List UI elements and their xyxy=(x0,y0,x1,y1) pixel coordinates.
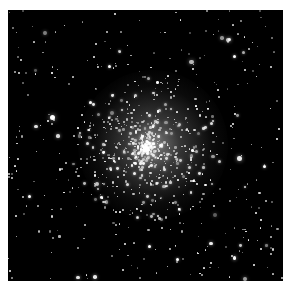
star xyxy=(84,224,86,226)
star xyxy=(182,258,184,260)
star xyxy=(35,73,36,74)
star xyxy=(140,210,142,212)
star xyxy=(144,179,146,181)
star xyxy=(105,200,108,203)
star xyxy=(281,277,283,279)
star xyxy=(237,33,239,35)
star xyxy=(234,113,236,115)
star xyxy=(148,245,151,248)
star xyxy=(146,112,147,113)
star xyxy=(68,83,70,85)
star xyxy=(113,67,115,69)
star xyxy=(169,128,171,130)
star xyxy=(218,96,220,98)
star xyxy=(179,222,181,224)
star xyxy=(117,176,119,178)
star xyxy=(242,61,243,62)
star xyxy=(193,64,194,65)
star xyxy=(101,66,102,67)
star xyxy=(51,215,53,217)
star xyxy=(154,219,156,221)
star xyxy=(185,178,186,179)
star xyxy=(265,200,267,202)
star xyxy=(218,160,221,163)
star xyxy=(272,162,273,163)
star xyxy=(108,154,110,156)
star xyxy=(180,136,182,138)
star xyxy=(160,146,162,148)
star xyxy=(155,157,156,158)
star xyxy=(110,111,114,115)
star xyxy=(194,98,196,100)
star xyxy=(170,229,171,230)
star xyxy=(20,59,22,61)
star xyxy=(213,34,214,35)
star xyxy=(267,267,268,268)
star xyxy=(116,167,119,170)
star xyxy=(34,125,38,129)
star xyxy=(174,119,175,120)
star xyxy=(234,227,235,228)
star xyxy=(141,174,144,177)
star xyxy=(83,238,85,240)
star xyxy=(237,84,238,85)
star xyxy=(154,94,156,96)
star xyxy=(8,258,9,259)
star xyxy=(78,187,79,188)
star xyxy=(211,115,213,117)
star xyxy=(174,146,176,148)
star xyxy=(82,21,84,23)
star xyxy=(209,242,212,245)
star xyxy=(216,84,217,85)
star xyxy=(276,228,278,230)
star xyxy=(225,246,227,248)
star xyxy=(12,27,14,29)
star xyxy=(36,151,37,152)
star xyxy=(19,130,21,132)
star xyxy=(32,26,33,27)
star xyxy=(201,274,203,276)
star xyxy=(130,55,132,57)
star xyxy=(165,216,167,218)
star xyxy=(181,230,183,232)
star xyxy=(260,17,262,19)
star xyxy=(151,159,153,161)
star xyxy=(127,157,129,159)
star xyxy=(212,141,214,143)
star xyxy=(271,201,273,203)
star xyxy=(176,111,178,113)
star xyxy=(118,142,120,144)
star xyxy=(8,173,10,175)
star xyxy=(37,205,39,207)
star xyxy=(115,224,117,226)
star xyxy=(139,162,142,165)
star xyxy=(120,31,121,32)
star xyxy=(124,243,126,245)
star xyxy=(196,108,198,110)
star xyxy=(17,56,19,58)
star xyxy=(110,100,111,101)
star xyxy=(63,192,65,194)
star xyxy=(230,169,231,170)
star xyxy=(127,64,129,66)
star xyxy=(270,247,272,249)
star xyxy=(161,182,162,183)
star xyxy=(127,151,129,153)
star xyxy=(139,277,140,278)
star xyxy=(102,157,104,159)
star xyxy=(83,192,84,193)
star xyxy=(271,37,272,38)
star xyxy=(134,125,136,127)
star xyxy=(16,136,17,137)
star xyxy=(33,181,35,183)
star xyxy=(54,77,55,78)
star xyxy=(170,132,173,135)
star xyxy=(143,258,145,260)
star xyxy=(114,192,116,194)
star xyxy=(64,25,65,26)
star xyxy=(128,227,129,228)
star xyxy=(75,171,77,173)
star xyxy=(159,140,160,141)
star xyxy=(115,211,117,213)
star xyxy=(150,215,153,218)
